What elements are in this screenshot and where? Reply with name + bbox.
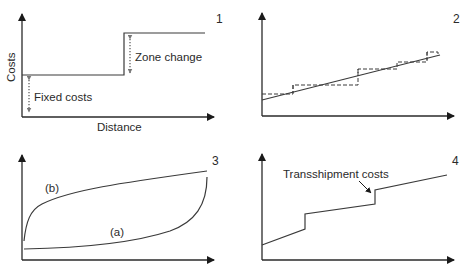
- fixed-costs-label: Fixed costs: [34, 91, 92, 103]
- panel-number: 3: [212, 154, 219, 168]
- curve-b-label: (b): [45, 182, 59, 194]
- panel-number: 4: [452, 154, 459, 168]
- panel-4: Transshipment costs 4: [262, 154, 459, 260]
- panel-2: 2: [262, 12, 460, 116]
- curve-a-label: (a): [110, 226, 124, 238]
- panel-1: 1 Fixed costs Zone change Distance Costs: [5, 12, 223, 133]
- stepped-cost-line: [262, 52, 438, 94]
- panel-number: 1: [216, 12, 223, 26]
- transshipment-cost-line: [262, 175, 447, 245]
- transshipment-pointer-arrow: [359, 181, 371, 193]
- x-axis-label: Distance: [97, 121, 142, 133]
- zone-change-label: Zone change: [135, 51, 202, 63]
- diagram-canvas: 1 Fixed costs Zone change Distance Costs…: [0, 0, 464, 273]
- panel-3: (b) (a) 3: [22, 154, 219, 260]
- panel-number: 2: [453, 12, 460, 26]
- transshipment-label: Transshipment costs: [283, 168, 389, 180]
- y-axis-label: Costs: [5, 52, 17, 82]
